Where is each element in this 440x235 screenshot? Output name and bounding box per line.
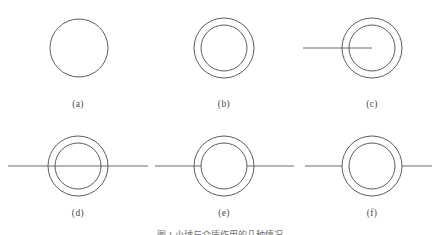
- figure-root: (a)(b)(c)(d)(e)(f)图 1 小球与介质作用的几种情况: [0, 0, 440, 235]
- outer-circle-e: [194, 136, 254, 196]
- panel-label-d: (d): [72, 208, 84, 218]
- panel-label-c: (c): [366, 99, 378, 109]
- panel-c: [303, 18, 402, 78]
- figure-caption: 图 1 小球与介质作用的几种情况: [0, 228, 440, 235]
- panel-e: [155, 136, 294, 196]
- inner-circle-e: [201, 143, 247, 189]
- outer-circle-a: [50, 19, 108, 77]
- panel-label-f: (f): [367, 208, 378, 218]
- inner-circle-f: [349, 143, 395, 189]
- inner-circle-b: [201, 25, 247, 71]
- panel-label-b: (b): [218, 99, 230, 109]
- panel-a: [50, 19, 108, 77]
- panel-d: [8, 136, 148, 196]
- outer-circle-b: [194, 18, 254, 78]
- panel-f: [305, 136, 432, 196]
- panel-label-e: (e): [218, 208, 230, 218]
- panel-label-a: (a): [72, 99, 84, 109]
- figure-canvas: [0, 0, 440, 235]
- panel-b: [194, 18, 254, 78]
- outer-circle-f: [342, 136, 402, 196]
